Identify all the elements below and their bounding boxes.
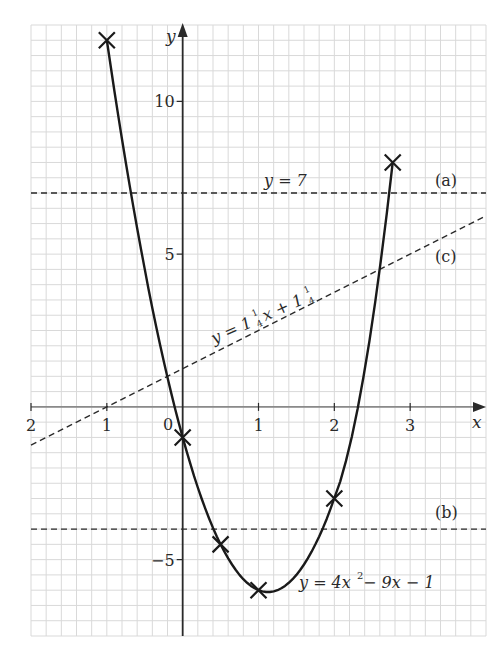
line-c-frac-num: 1	[250, 307, 259, 318]
line-a-equation: y = 7	[263, 171, 308, 190]
y-tick-label: 5	[164, 245, 174, 264]
curve-eq-y: y = 4x	[298, 573, 351, 592]
x-tick-label: 2	[26, 416, 36, 435]
x-tick-label: 3	[405, 416, 415, 435]
x-tick-label: 2	[329, 416, 339, 435]
line-a-tag: (a)	[435, 171, 457, 190]
curve-equation: y = 4x 2 − 9x − 1	[298, 570, 434, 592]
y-tick-label: −5	[151, 551, 175, 570]
x-tick-label: 1	[102, 416, 112, 435]
y-tick-label: 10	[154, 92, 174, 111]
line-c-equation: y = 1 1 4 x + 1 1 4	[206, 284, 316, 349]
line-c-frac-num-2: 1	[302, 284, 311, 295]
line-b-tag: (b)	[435, 503, 458, 522]
origin-label: 0	[163, 415, 173, 434]
x-tick-label: 1	[253, 416, 263, 435]
curve-eq-rest: − 9x − 1	[363, 573, 434, 592]
line-c-eq-x: x + 1	[259, 290, 306, 325]
y-axis-label: y	[165, 26, 176, 46]
line-c-tag: (c)	[435, 247, 456, 266]
line-c-frac-den-2: 4	[307, 295, 317, 307]
graph-figure: 21123105−5 y x 0 y = 7 (a) (c) y = 1 1 4…	[0, 0, 503, 652]
line-c-eq-y: y = 1	[207, 313, 255, 348]
x-axis-label: x	[472, 412, 482, 432]
x-axis-arrow-icon	[473, 402, 486, 412]
